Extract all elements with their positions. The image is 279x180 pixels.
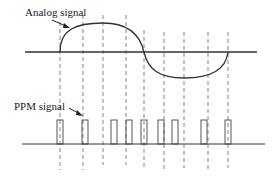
ppm-pulse bbox=[111, 120, 117, 144]
analog-signal-label: Analog signal bbox=[25, 6, 86, 18]
ppm-pulse bbox=[126, 120, 132, 144]
sample-lines bbox=[60, 15, 228, 172]
ppm-diagram: Analog signal PPM signal bbox=[0, 0, 279, 180]
ppm-pulse bbox=[201, 120, 207, 144]
ppm-pulse bbox=[172, 120, 178, 144]
analog-arrow-icon bbox=[52, 20, 70, 28]
ppm-signal-label: PPM signal bbox=[14, 100, 65, 112]
ppm-arrow-icon bbox=[69, 108, 83, 116]
ppm-pulse bbox=[158, 120, 164, 144]
